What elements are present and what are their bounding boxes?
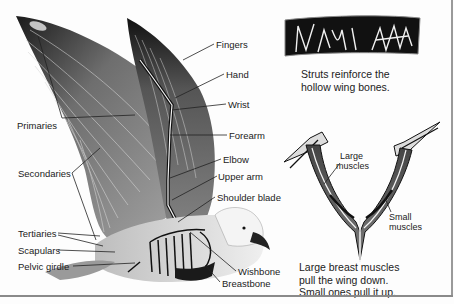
- large-muscles-line2: muscles: [336, 161, 369, 171]
- frame-border-right: [451, 0, 453, 296]
- label-small-muscles: Small muscles: [389, 212, 422, 232]
- label-scapulars: Scapulars: [18, 246, 60, 256]
- muscle-caption-line1: Large breast muscles: [299, 261, 399, 274]
- bone-caption-line1: Struts reinforce the: [301, 68, 390, 81]
- muscle-caption-line2: pull the wing down.: [299, 274, 399, 287]
- large-muscles-line1: Large: [336, 151, 369, 161]
- label-hand: Hand: [226, 70, 249, 80]
- diagram-frame: Fingers Hand Wrist Forearm Elbow Upper a…: [0, 0, 454, 304]
- label-wishbone: Wishbone: [238, 267, 280, 277]
- small-muscles-line1: Small: [389, 212, 422, 222]
- label-fingers: Fingers: [216, 40, 248, 50]
- label-tertiaries: Tertiaries: [18, 229, 57, 239]
- label-secondaries: Secondaries: [18, 169, 71, 179]
- frame-border-bottom: [0, 295, 453, 297]
- label-wrist: Wrist: [228, 100, 249, 110]
- small-muscles-line2: muscles: [389, 222, 422, 232]
- label-elbow: Elbow: [223, 155, 249, 165]
- label-breastbone: Breastbone: [222, 279, 271, 289]
- label-large-muscles: Large muscles: [336, 151, 369, 171]
- bone-caption: Struts reinforce the hollow wing bones.: [301, 68, 390, 93]
- bone-caption-line2: hollow wing bones.: [301, 81, 390, 94]
- label-forearm: Forearm: [229, 131, 265, 141]
- label-shoulder-blade: Shoulder blade: [217, 193, 281, 203]
- muscle-caption: Large breast muscles pull the wing down.…: [299, 261, 399, 299]
- label-primaries: Primaries: [17, 121, 57, 131]
- label-upper-arm: Upper arm: [218, 172, 263, 182]
- breast-muscle-illustration: [284, 122, 440, 262]
- bone-strut-illustration: [285, 16, 420, 56]
- label-pelvic-girdle: Pelvic girdle: [18, 262, 69, 272]
